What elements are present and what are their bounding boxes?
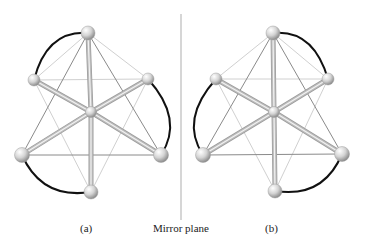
label-mirror-plane: Mirror plane (153, 222, 209, 234)
molecule-a (15, 26, 171, 199)
atom-center (269, 107, 280, 118)
atom-front-left (196, 148, 211, 163)
atom-bottom (84, 185, 98, 199)
atom-bottom (268, 184, 282, 198)
bond-highlight-front_right (274, 112, 342, 154)
molecule-b (194, 26, 350, 198)
atom-top (266, 26, 280, 40)
chiral-arc (275, 154, 342, 192)
thin-edge (88, 33, 148, 79)
atom-back-right (322, 73, 334, 85)
bond-highlight-front_right (91, 112, 161, 155)
bond-highlight-front_left (203, 112, 274, 155)
chirality-diagram (0, 0, 365, 244)
label-b: (b) (265, 222, 278, 234)
atom-center (86, 107, 97, 118)
atom-front-left (15, 148, 30, 163)
chiral-arc (22, 155, 91, 193)
atom-front-right (154, 148, 169, 163)
thin-edge (216, 33, 273, 79)
atom-front-right (335, 147, 350, 162)
thin-edge (273, 33, 328, 79)
chiral-arc (194, 79, 216, 155)
atom-back-right (142, 73, 154, 85)
bond-highlight-front_left (22, 112, 91, 155)
atom-back-left (210, 73, 222, 85)
label-a: (a) (80, 222, 92, 234)
atom-back-left (28, 74, 40, 86)
atom-top (81, 26, 95, 40)
chiral-arc (148, 79, 170, 155)
